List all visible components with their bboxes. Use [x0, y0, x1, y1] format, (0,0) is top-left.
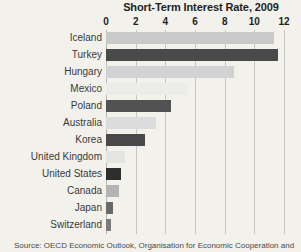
- bar-row: Poland: [0, 98, 301, 115]
- category-label-japan: Japan: [75, 202, 102, 213]
- bar-row: Mexico: [0, 81, 301, 98]
- category-label-iceland: Iceland: [70, 32, 102, 43]
- category-label-united-kingdom: United Kingdom: [31, 151, 102, 162]
- bar-rows: IcelandTurkeyHungaryMexicoPolandAustrali…: [0, 30, 301, 234]
- x-tick-label-0: 0: [103, 16, 109, 27]
- bar-row: Canada: [0, 183, 301, 200]
- category-label-poland: Poland: [71, 100, 102, 111]
- category-label-hungary: Hungary: [64, 66, 102, 77]
- x-tick-label-4: 4: [163, 16, 169, 27]
- category-label-korea: Korea: [75, 134, 102, 145]
- chart-title: Short-Term Interest Rate, 2009: [106, 1, 296, 13]
- bar-row: Hungary: [0, 64, 301, 81]
- category-label-canada: Canada: [67, 185, 102, 196]
- x-tick-label-12: 12: [278, 16, 289, 27]
- category-label-switzerland: Switzerland: [50, 219, 102, 230]
- bar-australia: [106, 117, 156, 129]
- bar-row: United States: [0, 166, 301, 183]
- bar-japan: [106, 202, 113, 214]
- x-tick-label-8: 8: [222, 16, 228, 27]
- bar-korea: [106, 134, 145, 146]
- x-tick-label-6: 6: [192, 16, 198, 27]
- bar-turkey: [106, 49, 278, 61]
- bar-poland: [106, 100, 171, 112]
- bar-switzerland: [106, 219, 111, 231]
- x-tick-label-10: 10: [249, 16, 260, 27]
- bar-iceland: [106, 32, 274, 44]
- chart-figure: Short-Term Interest Rate, 2009 024681012…: [0, 0, 301, 252]
- source-note: Source: OECD Economic Outlook, Organisat…: [14, 241, 301, 251]
- category-label-mexico: Mexico: [70, 83, 102, 94]
- bar-hungary: [106, 66, 234, 78]
- category-label-united-states: United States: [42, 168, 102, 179]
- bar-row: Japan: [0, 200, 301, 217]
- bar-united-kingdom: [106, 151, 125, 163]
- category-label-turkey: Turkey: [72, 49, 102, 60]
- bar-mexico: [106, 83, 188, 95]
- bar-canada: [106, 185, 119, 197]
- bar-row: United Kingdom: [0, 149, 301, 166]
- x-tick-label-2: 2: [133, 16, 139, 27]
- bar-row: Australia: [0, 115, 301, 132]
- x-axis-tick-labels: 024681012: [0, 16, 301, 30]
- bar-united-states: [106, 168, 121, 180]
- bar-row: Iceland: [0, 30, 301, 47]
- bar-row: Turkey: [0, 47, 301, 64]
- bar-row: Switzerland: [0, 217, 301, 234]
- bar-row: Korea: [0, 132, 301, 149]
- category-label-australia: Australia: [63, 117, 102, 128]
